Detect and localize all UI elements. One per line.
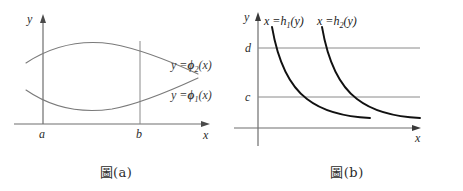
label-h2-arg: (y) <box>343 14 356 28</box>
label-h1: x =h1(y) <box>264 14 304 30</box>
x-axis-label-a: x <box>203 128 208 143</box>
caption-panel-a: 圖(a) <box>0 162 232 181</box>
y-axis-label-b: y <box>244 10 249 25</box>
label-phi1-arg: (x) <box>198 88 211 102</box>
label-phi2-arg: (x) <box>198 58 211 72</box>
y-axis-label-a: y <box>27 12 32 27</box>
label-phi1-lead: y = <box>171 88 187 102</box>
panel-b: y x d c x =h1(y) x =h2(y) 圖(b) <box>231 0 463 191</box>
tick-label-a: a <box>39 127 45 142</box>
x-axis-label-b: x <box>415 131 420 146</box>
label-h1-lead: x = <box>264 14 280 28</box>
y-axis-b <box>255 12 261 146</box>
label-phi2: y =ϕ2(x) <box>171 58 212 74</box>
label-phi2-lead: y = <box>171 58 187 72</box>
curve-h1 <box>272 27 370 118</box>
tick-label-d: d <box>245 41 251 56</box>
label-h2-lead: x = <box>317 14 333 28</box>
caption-panel-b: 圖(b) <box>231 162 463 181</box>
label-phi1: y =ϕ1(x) <box>171 88 212 104</box>
label-h1-arg: (y) <box>290 14 303 28</box>
tick-label-c: c <box>245 90 250 105</box>
tick-label-b: b <box>136 127 142 142</box>
panel-a-graphic <box>0 0 232 155</box>
label-h2: x =h2(y) <box>317 14 357 30</box>
y-axis-a <box>40 14 46 124</box>
x-axis-b <box>234 125 421 131</box>
figure-root: y x a b y =ϕ2(x) y =ϕ1(x) 圖(a) <box>0 0 463 191</box>
panel-a: y x a b y =ϕ2(x) y =ϕ1(x) 圖(a) <box>0 0 232 191</box>
curve-h2 <box>322 27 420 118</box>
